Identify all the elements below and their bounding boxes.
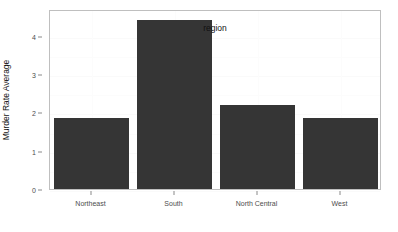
- x-tick-label: West: [332, 200, 348, 207]
- y-tick-mark: [38, 75, 42, 76]
- bar: [303, 118, 378, 189]
- x-tick-label: Northeast: [75, 200, 105, 207]
- y-tick-label: 1: [32, 148, 36, 155]
- x-tick-mark: [256, 191, 257, 195]
- y-tick-mark: [38, 36, 42, 37]
- y-tick-label: 2: [32, 110, 36, 117]
- plot-panel: [49, 10, 381, 190]
- x-axis: NortheastSouthNorth CentralWest: [0, 190, 398, 232]
- bar: [220, 105, 295, 189]
- x-axis-title: region: [203, 23, 227, 33]
- bars-layer: [50, 11, 380, 189]
- x-tick-label: South: [164, 200, 182, 207]
- x-tick-label: North Central: [236, 200, 278, 207]
- y-tick-mark: [38, 151, 42, 152]
- y-axis-title: Murder Rate Average: [1, 60, 11, 141]
- x-tick-mark: [90, 191, 91, 195]
- x-tick-mark: [173, 191, 174, 195]
- x-tick-mark: [339, 191, 340, 195]
- y-tick-label: 4: [32, 33, 36, 40]
- y-tick-mark: [38, 113, 42, 114]
- bar: [137, 20, 212, 189]
- bar: [54, 118, 129, 189]
- y-tick-label: 3: [32, 72, 36, 79]
- bar-chart-figure: 43210 Murder Rate Average NortheastSouth…: [0, 0, 398, 232]
